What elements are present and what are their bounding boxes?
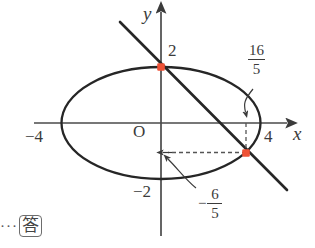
intersection-point-lower — [242, 149, 250, 157]
annotation-y-value: − 6 5 — [198, 186, 222, 221]
answer-dots: ··· — [0, 218, 18, 235]
x-axis-label: x — [293, 124, 301, 143]
tick-label-x-right: 4 — [264, 128, 273, 145]
annotation-y-value-fraction: 6 5 — [207, 186, 222, 221]
annotation-x-value-fraction: 16 5 — [248, 42, 265, 77]
leader-arrow-y-value — [168, 159, 196, 188]
tick-label-x-left: −4 — [25, 128, 43, 145]
tick-label-y-top: 2 — [168, 42, 177, 59]
annotation-y-value-numerator: 6 — [210, 186, 220, 203]
y-axis-label: y — [143, 4, 151, 23]
tick-label-y-bottom: −2 — [133, 183, 151, 200]
coordinate-diagram-svg — [0, 0, 315, 248]
annotation-y-value-denominator: 5 — [210, 204, 220, 221]
answer-marker: ··· 答 — [0, 215, 42, 237]
annotation-x-value-denominator: 5 — [252, 60, 262, 77]
origin-label: O — [133, 123, 145, 140]
math-figure: y x O 2 −2 −4 4 16 5 − 6 5 ··· 答 — [0, 0, 315, 248]
intersection-point-upper — [157, 63, 165, 71]
answer-label: 答 — [19, 215, 42, 237]
annotation-x-value-numerator: 16 — [248, 42, 265, 59]
annotation-y-value-sign: − — [198, 196, 206, 211]
annotation-x-value: 16 5 — [247, 42, 265, 77]
